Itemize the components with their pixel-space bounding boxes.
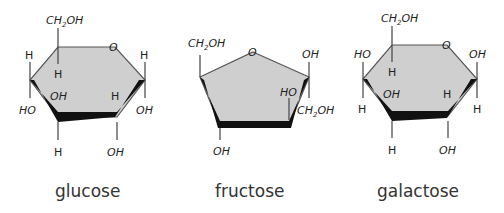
c3-up-label: OH <box>383 88 400 101</box>
c2-up-label: H <box>111 90 119 103</box>
c3-down-label: H <box>388 144 396 157</box>
c2-up-label: H <box>443 88 451 101</box>
c2-down-label: OH <box>107 146 124 159</box>
galactose-ring <box>363 45 477 116</box>
c2-down-label: OH <box>439 144 456 157</box>
c1-up-label: H <box>140 49 148 62</box>
sugar-structures-diagram: CH2OH O H HO H OH H H OH H OH glucose CH… <box>0 0 504 213</box>
ch2oh-label: CH2OH <box>381 12 418 27</box>
ring-oxygen-label: O <box>442 39 451 52</box>
c5-h-label: H <box>388 66 396 79</box>
right-ch2oh-label: CH2OH <box>297 104 334 119</box>
c1-down-label: H <box>473 103 481 116</box>
galactose-name: galactose <box>377 181 459 201</box>
c1-down-label: OH <box>136 104 153 117</box>
c4-oh-label: OH <box>213 145 230 158</box>
glucose-name: glucose <box>55 181 120 201</box>
ring-oxygen-label: O <box>248 46 257 59</box>
left-ch2oh-label: CH2OH <box>188 37 225 52</box>
galactose-structure: CH2OH O HO H H OH H H OH OH H galactose <box>354 12 486 201</box>
c3-down-label: H <box>54 146 62 159</box>
c3-ho-label: HO <box>280 86 297 99</box>
right-oh-label: OH <box>302 48 319 61</box>
glucose-ring <box>30 47 145 117</box>
c4-up-label: H <box>25 49 33 62</box>
ch2oh-label: CH2OH <box>46 14 83 29</box>
c4-down-label: H <box>358 103 366 116</box>
glucose-structure: CH2OH O H HO H OH H H OH H OH glucose <box>19 14 153 201</box>
c4-up-label: HO <box>354 48 371 61</box>
ring-oxygen-label: O <box>109 41 118 54</box>
fructose-name: fructose <box>215 181 284 201</box>
c4-down-label: HO <box>19 104 36 117</box>
c1-up-label: OH <box>469 48 486 61</box>
c5-h-label: H <box>54 68 62 81</box>
c3-up-label: OH <box>50 90 67 103</box>
fructose-structure: CH2OH O OH HO CH2OH OH fructose <box>188 37 334 201</box>
